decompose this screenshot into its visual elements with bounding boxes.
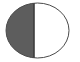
half-filled-circle-figure	[0, 0, 80, 62]
figure-canvas	[0, 0, 80, 62]
